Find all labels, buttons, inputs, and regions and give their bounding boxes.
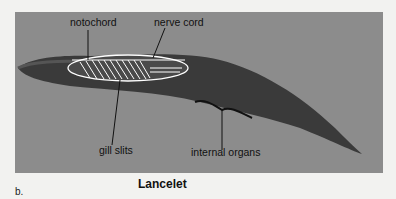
- label-gill-slits: gill slits: [99, 144, 133, 156]
- label-notochord: notochord: [70, 16, 117, 28]
- figure-part-label: b.: [15, 186, 23, 197]
- figure-title: Lancelet: [138, 177, 187, 191]
- lancelet-illustration: [0, 0, 396, 199]
- nerve-cord-leader: [153, 28, 165, 58]
- label-nerve-cord: nerve cord: [154, 16, 204, 28]
- label-internal-organs: internal organs: [191, 146, 260, 158]
